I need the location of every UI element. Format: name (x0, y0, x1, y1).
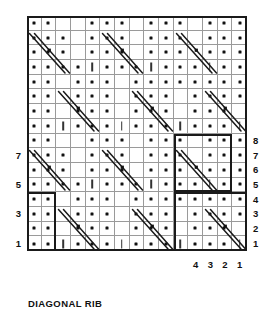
grid-cell (27, 31, 42, 46)
diagonal-rib-chart: 8765432175314321 DIAGONAL RIB (0, 0, 277, 321)
purl-stitch-symbol (120, 154, 123, 157)
purl-stitch-symbol (91, 139, 94, 142)
purl-stitch-symbol (164, 168, 167, 171)
purl-stitch-symbol (238, 51, 241, 54)
grid-cell (130, 134, 145, 149)
purl-stitch-symbol (47, 95, 50, 98)
purl-stitch-symbol (164, 227, 167, 230)
purl-stitch-symbol (208, 124, 211, 127)
purl-stitch-symbol (238, 80, 241, 83)
grid-cell (218, 16, 233, 31)
grid-cell (144, 148, 159, 163)
purl-stitch-symbol (76, 65, 79, 68)
purl-stitch-symbol (194, 80, 197, 83)
grid-cell (232, 178, 247, 193)
grid-cell (144, 236, 159, 251)
grid-cell (144, 163, 159, 178)
grid-cell (27, 178, 42, 193)
purl-stitch-symbol (76, 212, 79, 215)
grid-cell (115, 163, 130, 178)
grid-cell (144, 119, 159, 134)
grid-cell (86, 236, 101, 251)
grid-cell (42, 148, 57, 163)
grid-cell (232, 16, 247, 31)
purl-stitch-symbol (32, 154, 35, 157)
grid-cell (42, 178, 57, 193)
grid-cell (130, 192, 145, 207)
grid-cell (130, 148, 145, 163)
purl-stitch-symbol (164, 36, 167, 39)
grid-cell (56, 60, 71, 75)
purl-stitch-symbol (238, 154, 241, 157)
grid-cell (188, 16, 203, 31)
knit-stitch-symbol (121, 121, 123, 130)
grid-cell (71, 104, 86, 119)
purl-stitch-symbol (223, 21, 226, 24)
knit-stitch-symbol (209, 62, 211, 71)
grid-cell (115, 31, 130, 46)
purl-stitch-symbol (62, 51, 65, 54)
grid-cell (42, 104, 57, 119)
purl-stitch-symbol (32, 51, 35, 54)
knit-stitch-symbol (92, 62, 94, 71)
purl-stitch-symbol (164, 198, 167, 201)
grid-cell (100, 207, 115, 222)
grid-cell (130, 207, 145, 222)
grid-cell (232, 148, 247, 163)
grid-cell (115, 236, 130, 251)
grid-cell (100, 236, 115, 251)
grid-cell (100, 16, 115, 31)
pattern-repeat-box (27, 192, 56, 251)
purl-stitch-symbol (194, 124, 197, 127)
column-number-3: 3 (204, 260, 216, 270)
grid-cell (144, 16, 159, 31)
knit-stitch-symbol (62, 239, 64, 248)
purl-stitch-symbol (91, 242, 94, 245)
purl-stitch-symbol (208, 80, 211, 83)
row-number-right-1: 1 (253, 239, 265, 249)
purl-stitch-symbol (238, 139, 241, 142)
grid-cell (27, 16, 42, 31)
row-number-right-8: 8 (253, 136, 265, 146)
grid-cell (203, 89, 218, 104)
grid-cell (144, 60, 159, 75)
purl-stitch-symbol (164, 242, 167, 245)
grid-cell (232, 60, 247, 75)
grid-cell (203, 104, 218, 119)
grid-cell (100, 163, 115, 178)
purl-stitch-symbol (223, 80, 226, 83)
grid-cell (56, 16, 71, 31)
purl-stitch-symbol (62, 154, 65, 157)
purl-stitch-symbol (223, 51, 226, 54)
grid-cell (86, 60, 101, 75)
grid-cell (42, 75, 57, 90)
purl-stitch-symbol (47, 139, 50, 142)
purl-stitch-symbol (106, 21, 109, 24)
purl-stitch-symbol (120, 139, 123, 142)
grid-cell (174, 31, 189, 46)
grid-cell (115, 16, 130, 31)
purl-stitch-symbol (208, 21, 211, 24)
grid-cell (56, 222, 71, 237)
purl-stitch-symbol (164, 80, 167, 83)
grid-cell (203, 119, 218, 134)
purl-stitch-symbol (76, 227, 79, 230)
purl-stitch-symbol (76, 109, 79, 112)
grid-cell (159, 134, 174, 149)
purl-stitch-symbol (164, 212, 167, 215)
grid-cell (188, 60, 203, 75)
knit-stitch-symbol (150, 62, 152, 71)
grid-cell (115, 148, 130, 163)
purl-stitch-symbol (120, 36, 123, 39)
grid-cell (218, 31, 233, 46)
row-number-left-7: 7 (9, 151, 21, 161)
purl-stitch-symbol (76, 242, 79, 245)
grid-cell (159, 192, 174, 207)
purl-stitch-symbol (76, 95, 79, 98)
purl-stitch-symbol (164, 21, 167, 24)
grid-cell (27, 75, 42, 90)
purl-stitch-symbol (32, 168, 35, 171)
knit-stitch-symbol (92, 180, 94, 189)
purl-stitch-symbol (47, 65, 50, 68)
purl-stitch-symbol (106, 51, 109, 54)
